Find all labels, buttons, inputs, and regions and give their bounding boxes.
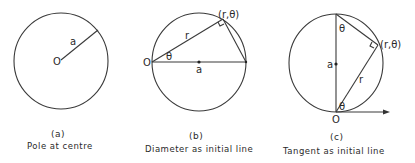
figure-c: O a (r,θ) r θ θ (c) Tangent as initial l…: [282, 14, 401, 156]
arrow-head-icon: [383, 110, 390, 115]
caption-c: Tangent as initial line: [282, 146, 385, 156]
figure-a: O a (a) Pole at centre: [14, 13, 108, 151]
pole-label-c: O: [332, 114, 340, 125]
point-label-c: (r,θ): [380, 39, 401, 50]
radius-mark-label-b: a: [196, 64, 202, 75]
point-label-b: (r,θ): [218, 9, 239, 20]
radius-mark-label-c: a: [327, 59, 333, 70]
centre-dot-c: [334, 62, 337, 65]
right-angle-mark-c: [370, 42, 374, 48]
figure-id-c: (c): [330, 132, 343, 142]
polar-circle-diagrams: O a (a) Pole at centre O a (r,θ) r θ (b)…: [0, 0, 415, 163]
caption-a: Pole at centre: [27, 141, 93, 151]
angle-bottom-label-c: θ: [339, 101, 345, 112]
chord-b: [223, 19, 246, 62]
figure-id-a: (a): [51, 129, 65, 139]
side-label-c: r: [359, 74, 364, 85]
figure-id-b: (b): [189, 131, 203, 141]
radius-label-a: a: [70, 36, 76, 47]
right-angle-mark-b: [218, 22, 224, 26]
diameter-end-dot-b: [245, 61, 247, 63]
circle-a: [14, 13, 108, 109]
pole-label-b: O: [143, 57, 151, 68]
figure-b: O a (r,θ) r θ (b) Diameter as initial li…: [143, 9, 253, 154]
caption-b: Diameter as initial line: [145, 144, 253, 154]
radius-line-a: [61, 30, 98, 60]
angle-top-label-c: θ: [339, 23, 345, 34]
angle-label-b: θ: [166, 51, 172, 62]
pole-label-a: O: [53, 56, 61, 67]
